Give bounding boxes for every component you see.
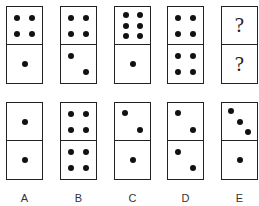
pip-dot	[175, 69, 181, 75]
pip-dot	[190, 15, 196, 21]
sequence-domino-1	[6, 6, 43, 84]
pip-dot	[29, 31, 35, 37]
domino-half-top: ?	[222, 7, 257, 45]
domino-half-top	[61, 103, 96, 141]
pip-dot	[123, 12, 129, 18]
pip-dot	[175, 15, 181, 21]
pip-dot	[83, 15, 89, 21]
pip-dot	[190, 69, 196, 75]
domino-half-bottom	[168, 141, 203, 179]
pip-dot	[68, 31, 74, 37]
domino-half-top	[7, 7, 42, 45]
pip-dot	[68, 127, 74, 133]
option-domino-c[interactable]	[114, 102, 151, 180]
pip-dot	[175, 149, 181, 155]
domino-half-bottom	[115, 45, 150, 83]
domino-half-top	[115, 7, 150, 45]
domino-half-top	[61, 7, 96, 45]
question-mark: ?	[222, 7, 257, 44]
pip-dot	[68, 111, 74, 117]
pip-dot	[228, 108, 234, 114]
option-label-b: B	[60, 192, 97, 204]
option-label-a: A	[6, 192, 43, 204]
pip-dot	[237, 119, 243, 125]
pip-dot	[22, 61, 28, 67]
pip-dot	[245, 129, 251, 135]
option-domino-b[interactable]	[60, 102, 97, 180]
pip-dot	[137, 12, 143, 18]
pip-dot	[68, 53, 74, 59]
option-label-e: E	[221, 192, 258, 204]
pip-dot	[83, 69, 89, 75]
domino-half-bottom	[222, 141, 257, 179]
domino-half-top	[7, 103, 42, 141]
pip-dot	[14, 31, 20, 37]
pip-dot	[83, 149, 89, 155]
pip-dot	[123, 33, 129, 39]
pip-dot	[190, 165, 196, 171]
pip-dot	[14, 15, 20, 21]
pip-dot	[137, 23, 143, 29]
sequence-domino-4	[167, 6, 204, 84]
option-domino-e[interactable]	[221, 102, 258, 180]
pip-dot	[29, 15, 35, 21]
pip-dot	[123, 23, 129, 29]
pip-dot	[68, 149, 74, 155]
pip-dot	[137, 33, 143, 39]
domino-half-top	[115, 103, 150, 141]
domino-half-bottom	[61, 45, 96, 83]
domino-half-bottom	[7, 45, 42, 83]
pip-dot	[83, 111, 89, 117]
domino-half-bottom: ?	[222, 45, 257, 83]
domino-half-bottom	[115, 141, 150, 179]
pip-dot	[190, 31, 196, 37]
pip-dot	[190, 127, 196, 133]
pip-dot	[22, 119, 28, 125]
pip-dot	[130, 157, 136, 163]
pip-dot	[137, 127, 143, 133]
sequence-domino-2	[60, 6, 97, 84]
option-domino-d[interactable]	[167, 102, 204, 180]
pip-dot	[68, 165, 74, 171]
pip-dot	[175, 53, 181, 59]
domino-half-bottom	[7, 141, 42, 179]
question-mark: ?	[222, 45, 257, 83]
pip-dot	[122, 110, 128, 116]
pip-dot	[83, 31, 89, 37]
pip-dot	[190, 53, 196, 59]
domino-half-top	[168, 7, 203, 45]
domino-half-top	[222, 103, 257, 141]
pip-dot	[68, 15, 74, 21]
option-label-c: C	[114, 192, 151, 204]
domino-half-top	[168, 103, 203, 141]
sequence-domino-3	[114, 6, 151, 84]
pip-dot	[83, 127, 89, 133]
pip-dot	[83, 165, 89, 171]
option-domino-a[interactable]	[6, 102, 43, 180]
domino-half-bottom	[168, 45, 203, 83]
pip-dot	[130, 61, 136, 67]
sequence-domino-5: ??	[221, 6, 258, 84]
pip-dot	[237, 157, 243, 163]
pip-dot	[175, 31, 181, 37]
pip-dot	[22, 157, 28, 163]
option-label-d: D	[167, 192, 204, 204]
domino-half-bottom	[61, 141, 96, 179]
pip-dot	[175, 110, 181, 116]
